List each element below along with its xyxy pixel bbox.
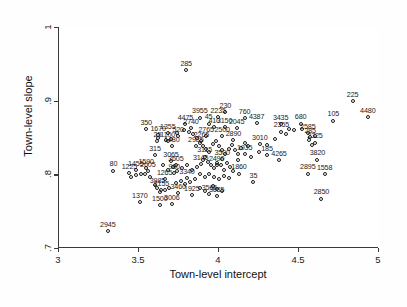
data-point (279, 130, 283, 134)
y-axis-tick (54, 101, 58, 102)
data-point (265, 153, 269, 157)
data-point (111, 169, 115, 173)
data-point (106, 229, 110, 233)
data-point (187, 130, 191, 134)
data-point (315, 158, 319, 162)
data-point (306, 172, 310, 176)
data-point-label: 4265 (271, 150, 286, 157)
data-point (170, 144, 174, 148)
y-axis-label: Town-level slope (22, 6, 34, 226)
data-point (366, 115, 370, 119)
data-points-layer: 2852254480105350395523022357604475454387… (59, 27, 378, 247)
scatter-plot-figure: 2852254480105350395523022357604475454387… (0, 0, 407, 307)
data-point (217, 177, 221, 181)
data-point (220, 134, 224, 138)
data-point-label: 680 (295, 113, 307, 120)
data-point (193, 177, 197, 181)
data-point (243, 152, 247, 156)
data-point (158, 203, 162, 207)
data-point (155, 139, 159, 143)
data-point-label: 2235 (210, 106, 225, 113)
data-point (230, 143, 234, 147)
data-point-label: 2945 (100, 221, 115, 228)
data-point (215, 194, 219, 198)
data-point-label: 285 (180, 59, 192, 66)
data-point (227, 176, 231, 180)
data-point (231, 138, 235, 142)
data-point (212, 175, 216, 179)
data-point (138, 200, 142, 204)
data-point (255, 121, 259, 125)
data-point-label: 35 (250, 171, 258, 178)
data-point (331, 119, 335, 123)
data-point-label: 105 (328, 110, 340, 117)
data-point-label: 2895 (300, 163, 315, 170)
data-point-label: 3145 (193, 154, 208, 161)
x-axis-tick-label: 5 (375, 254, 380, 265)
x-axis-tick-label: 3 (55, 254, 60, 265)
y-axis-tick-label: .9 (42, 94, 53, 108)
data-point (222, 168, 226, 172)
data-point (199, 162, 203, 166)
data-point (236, 152, 240, 156)
data-point (184, 68, 188, 72)
data-point-label: 2045 (229, 118, 244, 125)
data-point-label: 4387 (249, 112, 264, 119)
data-point-label: 2325 (307, 132, 322, 139)
data-point-label: 2890 (226, 130, 241, 137)
x-axis-tick (378, 248, 379, 252)
data-point (146, 169, 150, 173)
data-point (236, 158, 240, 162)
data-point-label: 1860 (231, 163, 246, 170)
data-point (207, 172, 211, 176)
data-point-label: 2850 (314, 188, 329, 195)
data-point (195, 165, 199, 169)
data-point-label: 3820 (310, 149, 325, 156)
data-point (170, 202, 174, 206)
data-point-label: 1558 (317, 164, 332, 171)
x-axis-tick-label: 3.5 (131, 254, 144, 265)
data-point-label: 80 (110, 160, 118, 167)
data-point-label: 2490 (209, 155, 224, 162)
x-axis-tick (298, 248, 299, 252)
data-point (129, 175, 133, 179)
data-point (277, 158, 281, 162)
data-point (225, 161, 229, 165)
data-point (273, 137, 277, 141)
data-point-label: 1480 (164, 136, 179, 143)
data-point (313, 141, 317, 145)
data-point (203, 175, 207, 179)
x-axis-tick-label: 4.5 (291, 254, 304, 265)
data-point-label: 2740 (183, 118, 198, 125)
y-axis-tick (54, 27, 58, 28)
data-point-label: 3685 (209, 185, 224, 192)
data-point-label: 2985 (188, 136, 203, 143)
data-point-label: 225 (347, 91, 359, 98)
data-point (185, 176, 189, 180)
data-point (212, 166, 216, 170)
data-point-label: 3006 (164, 193, 179, 200)
data-point (284, 132, 288, 136)
data-point (144, 127, 148, 131)
data-point-label: 2355 (274, 121, 289, 128)
y-axis-tick-label: .8 (42, 167, 53, 181)
x-axis-tick-label: 4 (215, 254, 220, 265)
data-point (323, 172, 327, 176)
data-point (198, 172, 202, 176)
data-point-label: 3340 (179, 168, 194, 175)
data-point (319, 197, 323, 201)
x-axis-tick (58, 248, 59, 252)
x-axis-tick (218, 248, 219, 252)
data-point (351, 99, 355, 103)
data-point (251, 180, 255, 184)
data-point (219, 163, 223, 167)
x-axis-label: Town-level intercept (58, 268, 378, 280)
data-point (292, 128, 296, 132)
data-point (222, 174, 226, 178)
data-point (189, 126, 193, 130)
data-point-label: 1225 (122, 162, 137, 169)
data-point-label: 2155 (154, 179, 169, 186)
data-point-label: 1935 (237, 144, 252, 151)
data-point (139, 172, 143, 176)
x-axis-tick (138, 248, 139, 252)
